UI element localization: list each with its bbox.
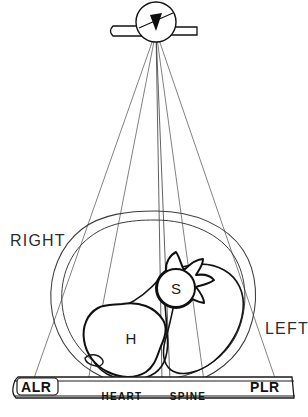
xray-projection-diagram: H S RIGHT LEFT ALR PLR — [0, 0, 308, 417]
spine-letter-label: S — [171, 280, 181, 297]
shadow-caption-heart: HEART — [102, 391, 143, 402]
heart-letter-label: H — [126, 330, 137, 347]
label-right: RIGHT — [10, 232, 66, 249]
detector-label-plr: PLR — [250, 379, 280, 395]
detector-label-alr: ALR — [21, 379, 52, 395]
shadow-caption-spine: SPINE — [170, 391, 207, 402]
diagram-canvas: H S RIGHT LEFT ALR PLR — [0, 0, 308, 417]
detector-assembly: ALR PLR HEART SPINE — [13, 377, 295, 402]
label-left: LEFT — [265, 320, 308, 337]
